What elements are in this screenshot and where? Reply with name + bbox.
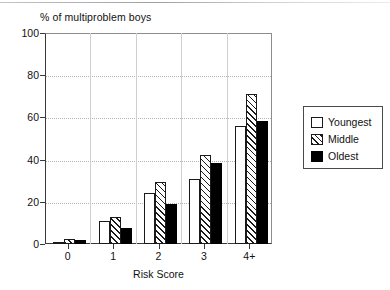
bar-middle-1[interactable] <box>110 217 121 244</box>
bar-chart-figure: % of multiproblem boys 020406080100 0123… <box>0 0 390 290</box>
legend-label: Youngest <box>328 117 371 128</box>
legend-swatch-youngest-icon <box>311 117 323 128</box>
bar-oldest-1[interactable] <box>121 228 132 244</box>
y-axis-tick-label: 20 <box>27 196 39 208</box>
x-axis-tick-label: 1 <box>110 250 116 262</box>
x-axis-tick-mark <box>159 244 160 249</box>
legend-swatch-oldest-icon <box>311 151 323 162</box>
bar-middle-3[interactable] <box>200 155 211 244</box>
bar-group <box>144 33 177 244</box>
bar-oldest-4plus[interactable] <box>257 121 268 244</box>
bar-youngest-4plus[interactable] <box>235 126 246 244</box>
bar-oldest-2[interactable] <box>166 204 177 244</box>
bar-group <box>235 33 268 244</box>
x-axis-title: Risk Score <box>45 268 272 280</box>
legend-item-youngest[interactable]: Youngest <box>311 114 382 130</box>
bar-middle-4plus[interactable] <box>246 94 257 244</box>
legend: YoungestMiddleOldest <box>303 106 383 169</box>
bar-youngest-2[interactable] <box>144 193 155 244</box>
bar-group <box>53 33 86 244</box>
bar-middle-2[interactable] <box>155 182 166 244</box>
x-axis-tick-label: 0 <box>65 250 71 262</box>
group-separator <box>136 33 137 244</box>
x-axis-tick-label: 3 <box>201 250 207 262</box>
group-separator <box>227 33 228 244</box>
x-axis-tick-mark <box>113 244 114 249</box>
y-axis-tick-label: 80 <box>27 69 39 81</box>
bar-youngest-3[interactable] <box>189 179 200 244</box>
legend-label: Oldest <box>328 151 358 162</box>
x-axis-tick-mark <box>249 244 250 249</box>
legend-item-middle[interactable]: Middle <box>311 131 382 147</box>
y-axis-tick-label: 40 <box>27 154 39 166</box>
legend-item-oldest[interactable]: Oldest <box>311 148 382 164</box>
group-separator <box>181 33 182 244</box>
x-axis-tick-label: 4+ <box>243 250 255 262</box>
x-axis: 01234+ <box>45 250 272 266</box>
y-axis: 020406080100 <box>0 0 45 290</box>
y-axis-tick-label: 100 <box>21 27 39 39</box>
group-separator <box>90 33 91 244</box>
bar-oldest-3[interactable] <box>211 163 222 244</box>
legend-label: Middle <box>328 134 359 145</box>
chart-title: % of multiproblem boys <box>40 11 151 23</box>
y-axis-tick-label: 0 <box>33 238 39 250</box>
legend-swatch-middle-icon <box>311 134 323 145</box>
bar-group <box>99 33 132 244</box>
bar-group <box>189 33 222 244</box>
y-axis-tick-label: 60 <box>27 111 39 123</box>
x-axis-tick-mark <box>204 244 205 249</box>
bar-youngest-1[interactable] <box>99 221 110 244</box>
x-axis-tick-label: 2 <box>156 250 162 262</box>
x-axis-tick-mark <box>68 244 69 249</box>
bars-layer <box>45 33 272 244</box>
